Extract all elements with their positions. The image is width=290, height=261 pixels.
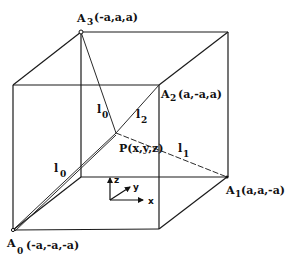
coordinate-axes: z y x [110, 175, 154, 206]
edge-depth-bottom-right [159, 177, 227, 229]
label-A2-sub: 2 [170, 93, 176, 103]
edge-front-bottom [13, 229, 159, 230]
label-l0: l 0 [54, 162, 66, 179]
label-A2-coords: (a,-a,a) [178, 88, 222, 101]
cube-front-face [13, 85, 159, 230]
label-l2: l 2 [136, 108, 147, 125]
axis-y-label: y [133, 182, 139, 192]
ray-P-A1 [116, 133, 227, 177]
label-A3: A 3 (-a,a,a) [76, 11, 138, 27]
label-l0-sub: 0 [60, 169, 66, 179]
label-l1-name: l [178, 142, 182, 155]
ray-P-A0 [13, 133, 116, 230]
label-l2-name: l [136, 108, 140, 121]
label-l1: l 1 [178, 142, 189, 159]
label-A1: A 1 (a,a,-a) [225, 184, 285, 199]
label-A0-coords: (-a,-a,-a) [26, 239, 79, 252]
cube-back-face [81, 32, 228, 177]
label-l3-sub: 0 [102, 110, 108, 120]
label-A2: A 2 (a,-a,a) [160, 88, 222, 103]
ray-P-A3 [81, 32, 116, 133]
label-A0-sub: 0 [17, 246, 23, 256]
axis-x-label: x [148, 196, 154, 206]
edge-depth-top-left [13, 32, 81, 85]
edge-depth-bottom-left [13, 177, 81, 230]
cube-diagram: A 3 (-a,a,a) A 2 (a,-a,a) A 1 (a,a,-a) A… [0, 0, 290, 261]
label-A0: A 0 (-a,-a,-a) [6, 237, 79, 256]
vertex-A0-dot [11, 228, 14, 231]
edge-depth-top-right [159, 32, 228, 85]
vertex-A3-dot [79, 30, 83, 34]
axis-y [110, 187, 130, 200]
label-A3-coords: (-a,a,a) [94, 11, 138, 24]
label-l0-name: l [54, 162, 58, 175]
label-A3-name: A [76, 12, 86, 25]
label-l3-name: l [97, 103, 101, 116]
label-A0-name: A [6, 237, 16, 250]
label-A3-sub: 3 [87, 17, 93, 27]
ray-P-A0-double [15, 135, 116, 231]
label-point-P: P(x,y,z) [119, 142, 163, 155]
label-A1-coords: (a,a,-a) [241, 184, 285, 197]
axis-z-label: z [114, 175, 119, 185]
vertex-A1-dot [225, 175, 228, 178]
label-A1-name: A [225, 184, 235, 197]
label-l2-sub: 2 [141, 115, 147, 125]
label-A2-name: A [160, 88, 170, 101]
label-l1-sub: 1 [183, 149, 189, 159]
